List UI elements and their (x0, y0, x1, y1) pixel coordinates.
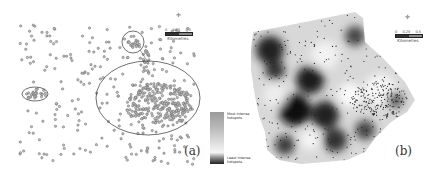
panel-label-b: (b) (395, 144, 412, 158)
scale-bar-a: 0 0.25 0.5 Kilometres (165, 28, 193, 41)
scale-tick: 0.5 (415, 30, 421, 34)
north-arrow-icon-b: ✛ (405, 14, 410, 20)
scale-unit: Kilometres (165, 36, 191, 41)
scale-tick: 0 (395, 30, 397, 34)
point-map-graphic (0, 0, 215, 178)
scale-bar-b: 0 0.25 0.5 Kilometres (395, 30, 423, 43)
scale-unit: Kilometres (395, 38, 421, 43)
scale-tick: 0.25 (172, 28, 180, 32)
scale-tick: 0 (165, 28, 167, 32)
cluster-ellipse-top (122, 31, 144, 53)
panel-label-a: (a) (184, 144, 201, 158)
scale-tick: 0.25 (402, 30, 410, 34)
scale-tick: 0.5 (185, 28, 191, 32)
panel-a-point-map: ✛ 0 0.25 0.5 Kilometres (a) (0, 0, 215, 178)
north-arrow-icon-a: ✛ (176, 12, 181, 18)
panel-b-hotspot-map: ✛ 0 0.25 0.5 Kilometres (b) (215, 0, 435, 178)
